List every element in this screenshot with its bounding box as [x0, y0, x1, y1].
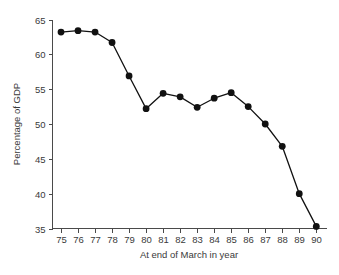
data-point-marker: [211, 95, 218, 102]
data-point-marker: [75, 27, 82, 34]
y-tick-label: 55: [35, 84, 46, 95]
data-point-marker: [313, 223, 320, 230]
data-point-marker: [228, 89, 235, 96]
gdp-percentage-line-chart: 35404550556065 7576777879808182838485868…: [0, 0, 339, 275]
y-tick-label: 60: [35, 49, 46, 60]
x-tick-label: 85: [226, 234, 237, 245]
data-point-marker: [194, 104, 201, 111]
x-tick-label: 76: [73, 234, 84, 245]
x-tick-label: 89: [294, 234, 305, 245]
data-point-marker: [58, 29, 65, 36]
x-tick-label: 87: [260, 234, 271, 245]
data-point-marker: [143, 105, 150, 112]
x-tick-label: 79: [124, 234, 135, 245]
data-point-marker: [177, 93, 184, 100]
data-point-marker: [262, 121, 269, 128]
x-tick-label: 82: [175, 234, 186, 245]
x-tick-label: 84: [209, 234, 220, 245]
data-point-marker: [279, 143, 286, 150]
data-point-marker: [126, 73, 133, 80]
data-point-marker: [109, 39, 116, 46]
data-point-marker: [296, 190, 303, 197]
x-tick-label: 77: [90, 234, 101, 245]
x-tick-label: 81: [158, 234, 169, 245]
y-tick-label: 65: [35, 15, 46, 26]
y-tick-label: 35: [35, 224, 46, 235]
x-tick-label: 78: [107, 234, 118, 245]
y-axis-title: Percentage of GDP: [11, 83, 22, 165]
y-tick-label: 40: [35, 189, 46, 200]
chart-background: [0, 0, 339, 275]
x-tick-label: 80: [141, 234, 152, 245]
x-tick-label: 86: [243, 234, 254, 245]
x-axis-title: At end of March in year: [140, 249, 238, 260]
data-point-marker: [92, 29, 99, 36]
data-point-marker: [245, 103, 252, 110]
chart-container: 35404550556065 7576777879808182838485868…: [0, 0, 339, 275]
data-point-marker: [160, 90, 167, 97]
x-tick-label: 88: [277, 234, 288, 245]
y-tick-label: 50: [35, 119, 46, 130]
x-tick-label: 75: [56, 234, 67, 245]
y-tick-label: 45: [35, 154, 46, 165]
x-tick-label: 90: [311, 234, 322, 245]
x-tick-label: 83: [192, 234, 203, 245]
